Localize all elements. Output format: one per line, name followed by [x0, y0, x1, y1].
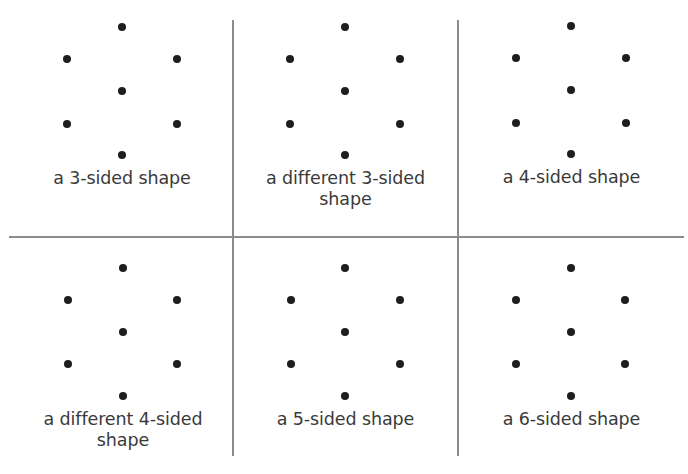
dot-lower-left[interactable] — [63, 120, 71, 128]
dot-lower-right[interactable] — [621, 360, 629, 368]
cell-5-sided-shape: a 5-sided shape — [234, 238, 457, 474]
dot-bottom[interactable] — [118, 151, 126, 159]
dot-top[interactable] — [567, 264, 575, 272]
cell-label-line-2: shape — [9, 430, 237, 451]
dot-upper-right[interactable] — [621, 296, 629, 304]
dot-lower-right[interactable] — [396, 360, 404, 368]
dot-center[interactable] — [341, 328, 349, 336]
dot-center[interactable] — [119, 328, 127, 336]
dot-bottom[interactable] — [341, 392, 349, 400]
dot-upper-left[interactable] — [286, 55, 294, 63]
dot-center[interactable] — [341, 87, 349, 95]
dot-upper-left[interactable] — [287, 296, 295, 304]
cell-label-line-1: a different 4-sided — [9, 409, 237, 430]
cell-different-3-sided-shape: a different 3-sided shape — [234, 0, 457, 236]
dot-lower-left[interactable] — [286, 120, 294, 128]
cell-label: a 5-sided shape — [234, 409, 457, 430]
dot-lower-right[interactable] — [622, 119, 630, 127]
dot-top[interactable] — [119, 264, 127, 272]
dot-center[interactable] — [567, 86, 575, 94]
cell-3-sided-shape: a 3-sided shape — [0, 0, 233, 236]
dot-lower-left[interactable] — [512, 119, 520, 127]
dot-upper-left[interactable] — [64, 296, 72, 304]
dot-upper-right[interactable] — [396, 296, 404, 304]
dot-upper-left[interactable] — [512, 54, 520, 62]
cell-4-sided-shape: a 4-sided shape — [459, 0, 684, 236]
cell-different-4-sided-shape: a different 4-sided shape — [0, 238, 233, 474]
cell-label-line-1: a different 3-sided — [234, 168, 457, 189]
dot-upper-left[interactable] — [63, 55, 71, 63]
dot-lower-right[interactable] — [173, 360, 181, 368]
cell-label: a different 4-sided shape — [9, 409, 237, 451]
dot-lower-right[interactable] — [173, 120, 181, 128]
cell-6-sided-shape: a 6-sided shape — [459, 238, 684, 474]
dot-upper-right[interactable] — [622, 54, 630, 62]
dot-top[interactable] — [567, 22, 575, 30]
cell-label: a different 3-sided shape — [234, 168, 457, 210]
dot-lower-left[interactable] — [64, 360, 72, 368]
dot-center[interactable] — [118, 87, 126, 95]
dot-top[interactable] — [118, 23, 126, 31]
cell-label: a 6-sided shape — [459, 409, 684, 430]
dot-upper-right[interactable] — [396, 55, 404, 63]
dot-upper-left[interactable] — [512, 296, 520, 304]
dot-center[interactable] — [567, 328, 575, 336]
dot-bottom[interactable] — [341, 151, 349, 159]
dot-upper-right[interactable] — [173, 55, 181, 63]
dot-bottom[interactable] — [119, 392, 127, 400]
dot-lower-left[interactable] — [512, 360, 520, 368]
dot-lower-right[interactable] — [396, 120, 404, 128]
dot-upper-right[interactable] — [173, 296, 181, 304]
dot-bottom[interactable] — [567, 150, 575, 158]
dot-bottom[interactable] — [567, 392, 575, 400]
dot-top[interactable] — [341, 264, 349, 272]
cell-label: a 4-sided shape — [459, 167, 684, 188]
dot-lower-left[interactable] — [287, 360, 295, 368]
cell-label-line-2: shape — [234, 189, 457, 210]
cell-label: a 3-sided shape — [9, 168, 235, 189]
dot-top[interactable] — [341, 23, 349, 31]
